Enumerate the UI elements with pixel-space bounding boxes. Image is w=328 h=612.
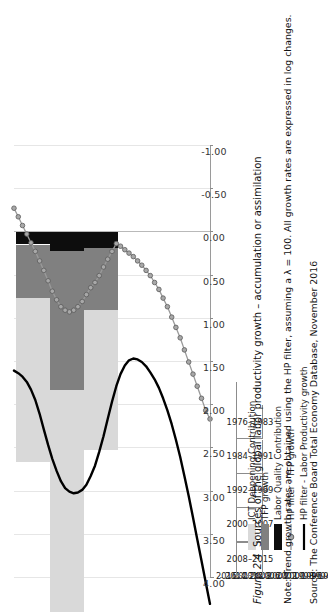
value-axis-tick bbox=[210, 188, 213, 189]
value-axis-tick bbox=[210, 318, 213, 319]
figure-note: Note: Trend growth rates are obtained us… bbox=[282, 15, 293, 605]
value-axis-tick-label: 3.50 bbox=[191, 535, 237, 546]
series-marker bbox=[37, 259, 42, 264]
series-marker bbox=[174, 325, 179, 330]
series-marker bbox=[123, 247, 128, 252]
series-marker bbox=[114, 241, 119, 246]
value-axis-tick bbox=[210, 447, 213, 448]
series-marker bbox=[140, 263, 145, 268]
series-marker bbox=[12, 206, 17, 211]
value-axis-tick-label: 1.50 bbox=[191, 362, 237, 373]
series-marker bbox=[59, 304, 64, 309]
series-marker bbox=[165, 304, 170, 309]
series-marker bbox=[127, 251, 132, 256]
figure-container: 4.003.503.002.502.001.501.000.500.00-0.5… bbox=[0, 0, 328, 612]
value-axis-tick bbox=[210, 275, 213, 276]
series-marker bbox=[135, 259, 140, 264]
series-marker bbox=[148, 273, 153, 278]
value-axis-tick bbox=[210, 534, 213, 535]
value-axis-tick-label: 0.00 bbox=[191, 232, 237, 243]
series-marker bbox=[80, 299, 85, 304]
plot-area bbox=[14, 146, 210, 578]
value-axis-tick bbox=[210, 361, 213, 362]
value-axis-tick bbox=[210, 491, 213, 492]
value-axis-tick-label: 1.00 bbox=[191, 319, 237, 330]
series-marker bbox=[152, 280, 157, 285]
series-marker bbox=[93, 280, 98, 285]
series-marker bbox=[16, 214, 21, 219]
series-marker bbox=[25, 232, 30, 237]
series-marker bbox=[50, 289, 55, 294]
rotated-figure-stage: 4.003.503.002.502.001.501.000.500.00-0.5… bbox=[0, 0, 328, 612]
series-marker bbox=[131, 254, 136, 259]
year-axis-tick bbox=[211, 577, 214, 578]
series-marker bbox=[20, 223, 25, 228]
series-marker bbox=[76, 304, 81, 309]
figure-caption-block: Figure 2.4 Sources of the global labor p… bbox=[246, 0, 328, 612]
series-line-labor-productivity bbox=[14, 359, 210, 604]
figure-title: Sources of the global labor productivity… bbox=[252, 156, 263, 547]
series-marker bbox=[182, 348, 187, 353]
value-axis-tick bbox=[210, 231, 213, 232]
value-axis-tick-label: 0.50 bbox=[191, 276, 237, 287]
series-marker bbox=[84, 292, 89, 297]
series-marker bbox=[63, 308, 68, 313]
series-marker bbox=[195, 384, 200, 389]
figure-title-line: Figure 2.4 Sources of the global labor p… bbox=[252, 156, 263, 604]
figure-source: Source: The Conference Board Total Econo… bbox=[308, 261, 319, 604]
year-axis-label: 2016 bbox=[216, 571, 237, 581]
series-marker bbox=[178, 336, 183, 341]
figure-number: Figure 2.4 bbox=[252, 553, 263, 604]
series-marker bbox=[46, 278, 51, 283]
value-axis-tick bbox=[210, 145, 213, 146]
series-marker bbox=[161, 296, 166, 301]
series-line-tfp bbox=[14, 208, 210, 419]
series-marker bbox=[42, 268, 47, 273]
value-axis-tick-label: -1.00 bbox=[191, 146, 237, 157]
series-marker bbox=[33, 249, 38, 254]
value-axis-tick-label: -0.50 bbox=[191, 189, 237, 200]
series-marker bbox=[118, 244, 123, 249]
series-marker bbox=[101, 265, 106, 270]
series-marker bbox=[105, 257, 110, 262]
series-marker bbox=[29, 240, 34, 245]
series-marker bbox=[157, 287, 162, 292]
series-marker bbox=[54, 297, 59, 302]
value-axis-tick-label: 2.00 bbox=[191, 405, 237, 416]
series-marker bbox=[97, 273, 102, 278]
series-marker bbox=[144, 268, 149, 273]
series-marker bbox=[110, 249, 115, 254]
series-marker bbox=[88, 285, 93, 290]
series-marker bbox=[199, 396, 204, 401]
series-marker bbox=[169, 315, 174, 320]
series-lines-layer bbox=[14, 146, 210, 578]
value-axis-tick bbox=[210, 404, 213, 405]
